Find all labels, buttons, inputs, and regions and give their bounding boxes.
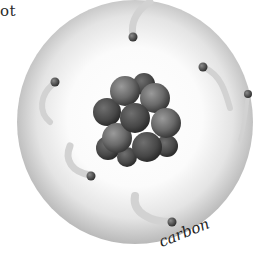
electron-icon (87, 172, 96, 181)
electron-icon (129, 33, 138, 42)
carbon-atom-illustration (0, 0, 259, 269)
electron-icon (51, 78, 60, 87)
electron-icon (199, 63, 208, 72)
electron-icon (168, 218, 177, 227)
electron-icon (244, 90, 252, 98)
